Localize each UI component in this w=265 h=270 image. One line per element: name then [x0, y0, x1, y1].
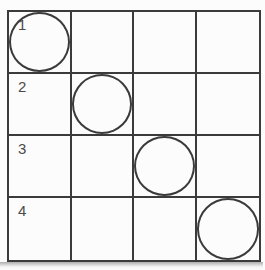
row-label-1: 1 [18, 17, 26, 32]
diagonal-matrix-grid: 1 2 3 4 [7, 10, 261, 262]
grid-cell-r1c1: 1 [9, 12, 72, 74]
grid-cell-r3c3 [134, 136, 197, 198]
row-label-4: 4 [18, 203, 26, 218]
grid-cell-r2c2 [72, 74, 135, 136]
grid-cell-r2c4 [197, 74, 260, 136]
row-label-3: 3 [18, 141, 26, 156]
grid-cell-r3c1: 3 [9, 136, 72, 198]
grid-cell-r3c2 [72, 136, 135, 198]
circle-marker-row-4 [197, 198, 260, 260]
grid-cell-r2c3 [134, 74, 197, 136]
row-label-2: 2 [18, 79, 26, 94]
scan-shadow [0, 262, 263, 270]
grid-cell-r4c1: 4 [9, 198, 72, 260]
grid-cell-r1c4 [197, 12, 260, 74]
grid-cell-r4c4 [197, 198, 260, 260]
circle-marker-row-3 [134, 136, 195, 196]
grid-cell-r1c2 [72, 12, 135, 74]
grid-cell-r3c4 [197, 136, 260, 198]
grid-cell-r4c3 [134, 198, 197, 260]
grid-cell-r1c3 [134, 12, 197, 74]
circle-marker-row-2 [72, 74, 133, 134]
grid-cell-r2c1: 2 [9, 74, 72, 136]
worksheet-canvas: 1 2 3 4 [0, 0, 265, 270]
grid-cell-r4c2 [72, 198, 135, 260]
